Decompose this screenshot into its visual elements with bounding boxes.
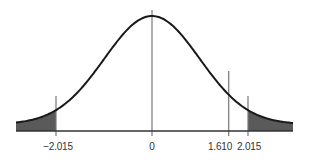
shaded-tails [16, 110, 293, 131]
density-curve [16, 16, 293, 123]
tick-label-1610: 1.610 [208, 141, 232, 152]
tick-label-0: 0 [149, 141, 154, 152]
critical-value-lines [56, 10, 248, 136]
tick-label-2015: 2.015 [237, 141, 261, 152]
tick-label-neg-2015: −2.015 [43, 141, 73, 152]
density-plot [0, 0, 309, 162]
